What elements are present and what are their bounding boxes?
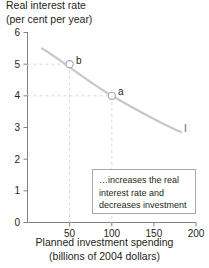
- ytick-label-2: 2: [4, 155, 20, 165]
- x-axis-ticks: [70, 223, 196, 227]
- ytick-label-0: 0: [4, 218, 20, 228]
- data-point-a: [108, 92, 115, 99]
- annotation-callout: …increases the real interest rate and de…: [92, 169, 196, 214]
- ytick-label-5: 5: [4, 60, 20, 70]
- ytick-label-4: 4: [4, 91, 20, 101]
- y-axis-ticks: [24, 33, 28, 223]
- x-axis-title: Planned investment spending (billions of…: [0, 236, 209, 263]
- investment-demand-chart: Real interest rate (per cent per year): [0, 0, 209, 268]
- ytick-label-1: 1: [4, 186, 20, 196]
- data-point-b: [66, 61, 73, 68]
- point-label-a: a: [118, 87, 124, 97]
- curve-label-i: I: [184, 124, 187, 134]
- ytick-label-3: 3: [4, 123, 20, 133]
- ytick-label-6: 6: [4, 28, 20, 38]
- investment-demand-curve: [42, 49, 181, 133]
- guide-lines-b: [28, 64, 70, 222]
- point-label-b: b: [76, 56, 82, 66]
